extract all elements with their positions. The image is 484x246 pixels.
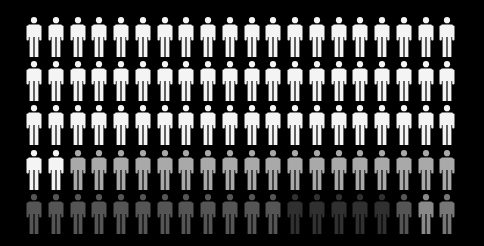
- person-icon: [244, 150, 260, 190]
- person-icon: [418, 150, 434, 190]
- person-icon: [48, 105, 64, 145]
- person-icon: [287, 17, 303, 57]
- person-icon: [222, 17, 238, 57]
- person-icon: [48, 194, 64, 234]
- person-icon: [48, 61, 64, 101]
- pictogram-grid: [0, 0, 484, 246]
- person-icon: [309, 61, 325, 101]
- person-icon: [374, 194, 390, 234]
- person-icon: [48, 150, 64, 190]
- person-icon: [200, 194, 216, 234]
- person-icon: [70, 61, 86, 101]
- person-icon: [439, 150, 455, 190]
- person-icon: [200, 150, 216, 190]
- person-icon: [70, 194, 86, 234]
- person-icon: [222, 105, 238, 145]
- person-icon: [135, 61, 151, 101]
- person-icon: [396, 194, 412, 234]
- person-icon: [309, 194, 325, 234]
- person-icon: [200, 17, 216, 57]
- person-icon: [265, 17, 281, 57]
- person-icon: [418, 17, 434, 57]
- person-icon: [352, 105, 368, 145]
- person-icon: [265, 61, 281, 101]
- person-icon: [113, 150, 129, 190]
- person-icon: [396, 150, 412, 190]
- person-icon: [287, 194, 303, 234]
- person-icon: [244, 61, 260, 101]
- person-icon: [265, 150, 281, 190]
- person-icon: [113, 194, 129, 234]
- person-icon: [331, 61, 347, 101]
- person-icon: [244, 17, 260, 57]
- person-icon: [331, 105, 347, 145]
- person-icon: [200, 105, 216, 145]
- person-icon: [287, 61, 303, 101]
- person-icon: [396, 61, 412, 101]
- person-icon: [135, 105, 151, 145]
- person-icon: [309, 17, 325, 57]
- person-icon: [135, 194, 151, 234]
- person-icon: [439, 61, 455, 101]
- person-icon: [113, 105, 129, 145]
- person-icon: [48, 17, 64, 57]
- person-icon: [352, 150, 368, 190]
- person-icon: [157, 17, 173, 57]
- person-icon: [91, 61, 107, 101]
- person-icon: [135, 150, 151, 190]
- person-icon: [222, 61, 238, 101]
- person-icon: [157, 61, 173, 101]
- person-icon: [70, 105, 86, 145]
- person-icon: [418, 61, 434, 101]
- person-icon: [70, 150, 86, 190]
- person-icon: [287, 150, 303, 190]
- person-icon: [352, 17, 368, 57]
- person-icon: [178, 17, 194, 57]
- person-icon: [200, 61, 216, 101]
- person-icon: [113, 61, 129, 101]
- person-icon: [113, 17, 129, 57]
- person-icon: [91, 17, 107, 57]
- person-icon: [178, 150, 194, 190]
- person-icon: [26, 17, 42, 57]
- person-icon: [178, 194, 194, 234]
- person-icon: [244, 194, 260, 234]
- person-icon: [26, 105, 42, 145]
- person-icon: [265, 194, 281, 234]
- person-icon: [91, 105, 107, 145]
- person-icon: [374, 150, 390, 190]
- person-icon: [309, 105, 325, 145]
- person-icon: [265, 105, 281, 145]
- person-icon: [439, 105, 455, 145]
- person-icon: [396, 17, 412, 57]
- person-icon: [70, 17, 86, 57]
- person-icon: [222, 150, 238, 190]
- person-icon: [396, 105, 412, 145]
- person-icon: [135, 17, 151, 57]
- person-icon: [26, 61, 42, 101]
- person-icon: [244, 105, 260, 145]
- person-icon: [352, 61, 368, 101]
- person-icon: [439, 17, 455, 57]
- person-icon: [352, 194, 368, 234]
- person-icon: [157, 105, 173, 145]
- person-icon: [178, 61, 194, 101]
- person-icon: [418, 194, 434, 234]
- person-icon: [222, 194, 238, 234]
- person-icon: [157, 194, 173, 234]
- person-icon: [374, 17, 390, 57]
- person-icon: [374, 61, 390, 101]
- person-icon: [331, 17, 347, 57]
- person-icon: [26, 194, 42, 234]
- person-icon: [287, 105, 303, 145]
- person-icon: [331, 194, 347, 234]
- person-icon: [374, 105, 390, 145]
- person-icon: [331, 150, 347, 190]
- person-icon: [309, 150, 325, 190]
- person-icon: [91, 194, 107, 234]
- person-icon: [439, 194, 455, 234]
- person-icon: [418, 105, 434, 145]
- person-icon: [26, 150, 42, 190]
- person-icon: [178, 105, 194, 145]
- person-icon: [157, 150, 173, 190]
